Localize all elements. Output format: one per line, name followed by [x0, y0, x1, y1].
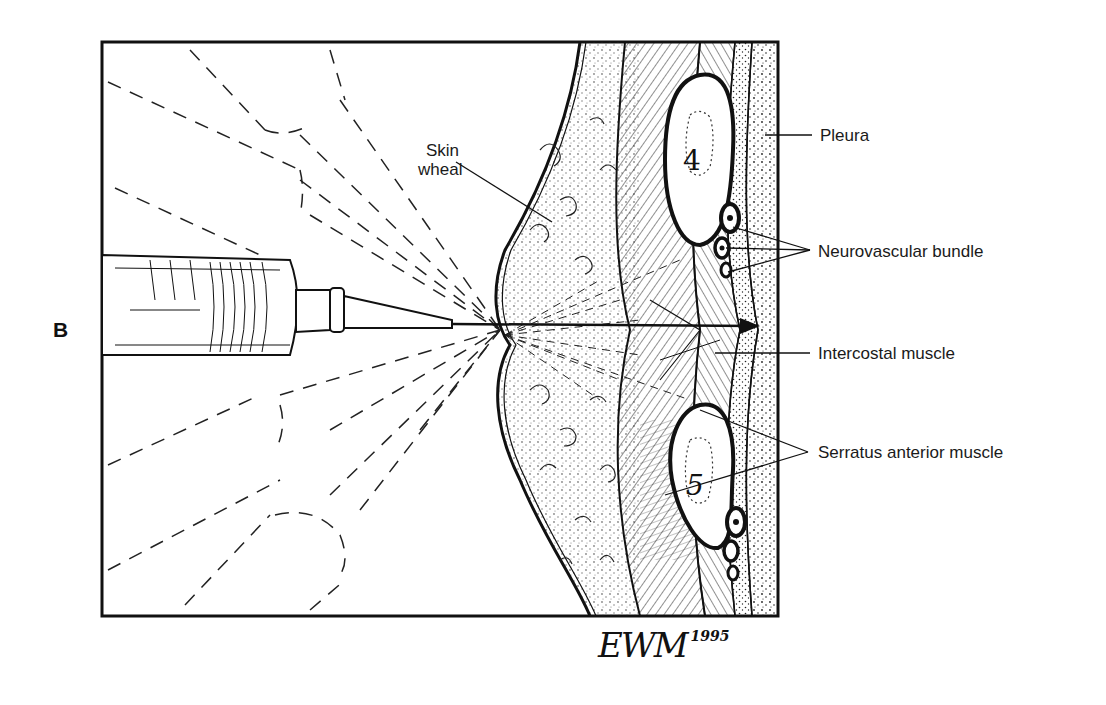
signature-year: 1995 — [691, 628, 730, 644]
label-skin-wheal-line1: Skin — [426, 141, 459, 161]
panel-letter: B — [53, 318, 68, 342]
label-skin-wheal-line2: wheal — [418, 160, 462, 180]
rib-4-number: 4 — [683, 144, 701, 177]
label-intercostal-muscle: Intercostal muscle — [818, 344, 955, 364]
label-neurovascular-bundle: Neurovascular bundle — [818, 242, 983, 262]
intercostal-nerve-lower — [728, 566, 738, 580]
label-pleura: Pleura — [820, 126, 869, 146]
intercostal-nerve-upper — [721, 263, 731, 277]
label-serratus-anterior-muscle: Serratus anterior muscle — [818, 443, 1003, 463]
artist-signature: EWM1995 — [598, 625, 730, 665]
syringe-collar — [330, 288, 344, 332]
signature-initials: EWM — [598, 625, 687, 665]
syringe-hub — [296, 290, 330, 332]
intercostal-artery-lower — [724, 541, 738, 561]
